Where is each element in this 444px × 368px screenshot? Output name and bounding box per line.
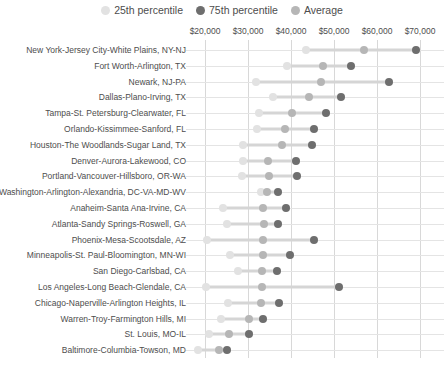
chart-row[interactable]: Orlando-Kissimmee-Sanford, FL [0,121,444,137]
data-point-avg[interactable] [259,236,267,244]
data-point-p75[interactable] [293,172,301,180]
circle-marker-icon [101,6,110,15]
data-point-p25[interactable] [239,157,247,165]
chart-row[interactable]: Washington-Arlington-Alexandria, DC-VA-M… [0,184,444,200]
data-point-p75[interactable] [292,157,300,165]
data-point-avg[interactable] [265,172,273,180]
data-point-p75[interactable] [412,46,420,54]
data-point-avg[interactable] [288,109,296,117]
data-point-p75[interactable] [347,62,355,70]
data-point-avg[interactable] [258,267,266,275]
data-point-avg[interactable] [360,46,368,54]
data-point-avg[interactable] [245,315,253,323]
chart-row[interactable]: St. Louis, MO-IL [0,326,444,342]
data-point-p75[interactable] [259,315,267,323]
data-point-p75[interactable] [310,236,318,244]
data-point-avg[interactable] [259,204,267,212]
chart-row[interactable]: San Diego-Carlsbad, CA [0,263,444,279]
y-axis-category-label: Anaheim-Santa Ana-Irvine, CA [70,203,186,213]
data-point-p25[interactable] [302,46,310,54]
data-point-avg[interactable] [264,157,272,165]
data-point-avg[interactable] [258,283,266,291]
chart-row[interactable]: Tampa-St. Petersburg-Clearwater, FL [0,105,444,121]
data-point-p25[interactable] [252,78,260,86]
chart-row[interactable]: Portland-Vancouver-Hillsboro, OR-WA [0,168,444,184]
chart-row[interactable]: Los Angeles-Long Beach-Glendale, CA [0,279,444,295]
y-axis-category-label: Minneapolis-St. Paul-Bloomington, MN-WI [27,250,186,260]
percentile-range-bar [221,317,263,320]
data-point-avg[interactable] [319,62,327,70]
data-point-avg[interactable] [278,141,286,149]
data-point-avg[interactable] [225,330,233,338]
chart-row[interactable]: Anaheim-Santa Ana-Irvine, CA [0,200,444,216]
percentile-range-bar [223,207,286,210]
percentile-range-bar [206,286,339,289]
chart-row[interactable]: Denver-Aurora-Lakewood, CO [0,153,444,169]
data-point-p25[interactable] [217,315,225,323]
data-point-avg[interactable] [317,78,325,86]
chart-row[interactable]: Warren-Troy-Farmington Hills, MI [0,311,444,327]
data-point-p25[interactable] [223,220,231,228]
data-point-p25[interactable] [203,236,211,244]
y-axis-category-label: Washington-Arlington-Alexandria, DC-VA-M… [0,187,186,197]
row-baseline [186,271,444,272]
data-point-p75[interactable] [335,283,343,291]
data-point-avg[interactable] [260,220,268,228]
chart-row[interactable]: Houston-The Woodlands-Sugar Land, TX [0,137,444,153]
chart-row[interactable]: Atlanta-Sandy Springs-Roswell, GA [0,216,444,232]
circle-marker-icon [291,6,300,15]
y-axis-category-label: San Diego-Carlsbad, CA [93,266,186,276]
chart-row[interactable]: Baltimore-Columbia-Towson, MD [0,342,444,358]
data-point-avg[interactable] [281,125,289,133]
data-point-p25[interactable] [238,172,246,180]
data-point-avg[interactable] [305,93,313,101]
data-point-p25[interactable] [226,251,234,259]
data-point-p75[interactable] [223,346,231,354]
data-point-p25[interactable] [269,93,277,101]
data-point-p75[interactable] [322,109,330,117]
data-point-p75[interactable] [286,251,294,259]
data-point-p25[interactable] [255,109,263,117]
data-point-p75[interactable] [274,188,282,196]
y-axis-category-label: Fort Worth-Arlington, TX [94,61,186,71]
y-axis-category-label: St. Louis, MO-IL [125,329,186,339]
chart-row[interactable]: Chicago-Naperville-Arlington Heights, IL [0,295,444,311]
chart-row[interactable]: Minneapolis-St. Paul-Bloomington, MN-WI [0,247,444,263]
data-point-p75[interactable] [273,267,281,275]
data-point-avg[interactable] [263,188,271,196]
y-axis-category-label: New York-Jersey City-White Plains, NY-NJ [26,45,186,55]
data-point-p25[interactable] [202,283,210,291]
data-point-p25[interactable] [205,330,213,338]
data-point-avg[interactable] [257,299,265,307]
chart-row[interactable]: New York-Jersey City-White Plains, NY-NJ [0,42,444,58]
data-point-p75[interactable] [308,141,316,149]
data-point-p75[interactable] [245,330,253,338]
data-point-p25[interactable] [239,141,247,149]
y-axis-category-label: Baltimore-Columbia-Towson, MD [62,345,186,355]
data-point-p75[interactable] [385,78,393,86]
x-axis-tick-label: $60,000 [362,26,393,36]
y-axis-category-label: Denver-Aurora-Lakewood, CO [71,156,186,166]
chart-row[interactable]: Newark, NJ-PA [0,74,444,90]
data-point-p75[interactable] [274,220,282,228]
data-point-p75[interactable] [282,204,290,212]
y-axis-category-label: Warren-Troy-Farmington Hills, MI [61,314,186,324]
data-point-p25[interactable] [194,346,202,354]
chart-row[interactable]: Phoenix-Mesa-Scootsdale, AZ [0,232,444,248]
data-point-p75[interactable] [337,93,345,101]
chart-row[interactable]: Fort Worth-Arlington, TX [0,58,444,74]
chart-row[interactable]: Dallas-Plano-Irving, TX [0,89,444,105]
x-axis-tick-label: $70,000 [405,26,436,36]
legend-entry[interactable]: 75th percentile [196,4,278,16]
legend-entry[interactable]: 25th percentile [101,4,183,16]
legend-entry[interactable]: Average [291,4,343,16]
data-point-p25[interactable] [283,62,291,70]
data-point-p25[interactable] [219,204,227,212]
data-point-avg[interactable] [259,251,267,259]
data-point-p25[interactable] [224,299,232,307]
data-point-p25[interactable] [253,125,261,133]
data-point-p25[interactable] [234,267,242,275]
data-point-p75[interactable] [275,299,283,307]
data-point-p75[interactable] [310,125,318,133]
x-axis-tick-label: $30,000 [233,26,264,36]
